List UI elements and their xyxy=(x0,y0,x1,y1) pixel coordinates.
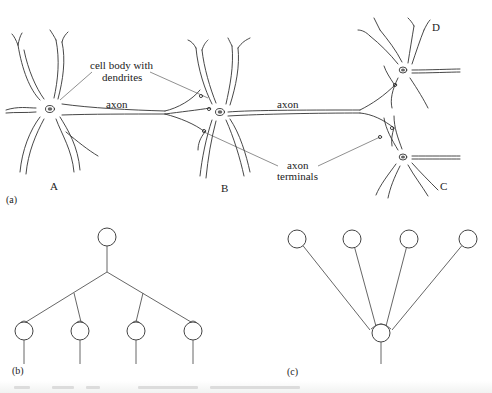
caption-fragment xyxy=(138,386,198,389)
neuron-d xyxy=(358,18,460,108)
neuron-label-c: C xyxy=(440,180,447,192)
node-circle xyxy=(184,322,202,340)
axon-terminals-label-line2: terminals xyxy=(277,170,318,182)
caption-fragment xyxy=(86,386,100,389)
edge xyxy=(107,272,191,322)
edge xyxy=(136,293,143,322)
cell-body-label-line2: dendrites xyxy=(102,71,142,83)
node-circle xyxy=(459,230,477,248)
node-circle xyxy=(343,230,361,248)
axon-label-2: axon xyxy=(277,98,299,110)
panel-b xyxy=(15,228,202,364)
neuron-label-b: B xyxy=(221,182,228,194)
edge xyxy=(392,246,462,330)
edge xyxy=(26,272,107,322)
cell-body-label-line1: cell body with xyxy=(90,59,153,71)
neuron-c xyxy=(376,116,460,198)
node-circle xyxy=(372,324,390,342)
leader-terminal-b xyxy=(204,132,278,166)
node-circle xyxy=(15,322,33,340)
neuron-label-d: D xyxy=(432,21,440,33)
caption-fragment xyxy=(52,386,74,389)
leader-lines xyxy=(60,72,380,166)
leader-terminal-c xyxy=(318,137,380,166)
neuron-label-a: A xyxy=(50,180,58,192)
leader-cell-body-a xyxy=(60,72,92,100)
edge xyxy=(355,248,377,330)
caption-fragment xyxy=(210,386,300,389)
leader-cell-body-b xyxy=(150,72,208,98)
node-circle xyxy=(400,230,418,248)
panel-label-c: (c) xyxy=(287,366,298,378)
node-circle xyxy=(127,322,145,340)
edge xyxy=(303,246,370,330)
panel-label-b: (b) xyxy=(12,365,24,377)
axon-label-1: axon xyxy=(106,98,128,110)
node-circle xyxy=(71,322,89,340)
neuron-figure: cell body with dendrites axon axon axon … xyxy=(0,0,492,393)
edge xyxy=(385,248,406,330)
node-circle xyxy=(288,230,306,248)
panel-c xyxy=(288,230,477,364)
caption-fragment xyxy=(14,386,30,389)
panel-label-a: (a) xyxy=(6,194,17,206)
panel-a: cell body with dendrites axon axon axon … xyxy=(6,18,460,206)
edge xyxy=(74,293,81,322)
node-circle xyxy=(98,228,116,246)
